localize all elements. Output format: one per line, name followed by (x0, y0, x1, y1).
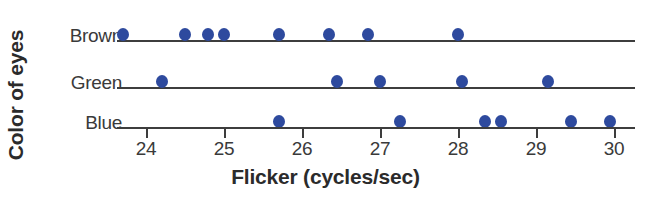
x-axis-tick (614, 129, 616, 138)
x-axis-tick-label: 25 (202, 138, 246, 160)
x-axis-tick-label: 24 (124, 138, 168, 160)
data-point (542, 75, 554, 88)
x-axis-tick-label: 27 (358, 138, 402, 160)
category-baseline-brown (117, 40, 635, 42)
x-axis-tick (536, 129, 538, 138)
x-axis-tick-label: 29 (514, 138, 558, 160)
category-baseline-green (117, 87, 635, 89)
x-axis-tick (302, 129, 304, 138)
x-axis-title: Flicker (cycles/sec) (0, 165, 651, 189)
data-point (117, 28, 129, 41)
data-point (218, 28, 230, 41)
x-axis-tick (224, 129, 226, 138)
x-axis-tick (146, 129, 148, 138)
x-axis-tick-label: 28 (436, 138, 480, 160)
data-point (179, 28, 191, 41)
x-axis-tick (458, 129, 460, 138)
data-point (273, 28, 285, 41)
data-point (374, 75, 386, 88)
x-axis-tick-label: 26 (280, 138, 324, 160)
x-axis-tick (380, 129, 382, 138)
data-point (331, 75, 343, 88)
x-axis-line (117, 127, 635, 129)
data-point (452, 28, 464, 41)
data-point (156, 75, 168, 88)
x-axis-tick-label: 30 (592, 138, 636, 160)
scatter-plot-figure: Color of eyes BrownGreenBlue 24252627282… (0, 0, 651, 198)
data-point (456, 75, 468, 88)
